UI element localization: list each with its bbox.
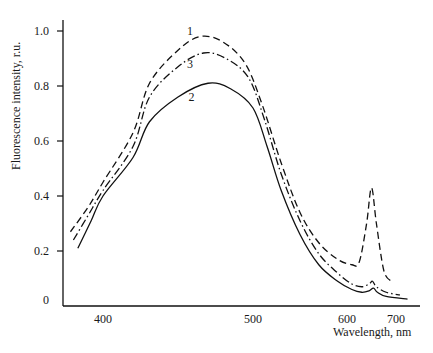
y-tick-label: 0.8: [34, 79, 49, 93]
curve-label-3: 3: [187, 57, 193, 71]
x-tick-label: 700: [387, 312, 405, 326]
curve-labels: 132: [187, 24, 195, 104]
curves: [70, 36, 407, 299]
y-ticks: 00.20.40.60.81.0: [34, 24, 63, 307]
y-tick-label: 1.0: [34, 24, 49, 38]
fluorescence-chart: 00.20.40.60.81.0 400500600700 132 Wavele…: [0, 0, 433, 353]
curve-label-1: 1: [187, 24, 193, 38]
curve-2: [78, 83, 408, 299]
curve-3: [73, 53, 399, 295]
x-axis-title: Wavelength, nm: [333, 325, 412, 339]
y-tick-label: 0.2: [34, 244, 49, 258]
curve-label-2: 2: [189, 90, 195, 104]
y-axis-title: Fluorescence intensity, r.u.: [9, 42, 23, 170]
x-tick-label: 400: [94, 312, 112, 326]
axes: [63, 20, 420, 306]
x-tick-label: 500: [244, 312, 262, 326]
y-tick-label: 0: [43, 293, 49, 307]
y-tick-label: 0.4: [34, 189, 49, 203]
x-tick-label: 600: [338, 312, 356, 326]
curve-1: [70, 36, 391, 281]
y-tick-label: 0.6: [34, 134, 49, 148]
x-ticks: 400500600700: [94, 312, 405, 326]
